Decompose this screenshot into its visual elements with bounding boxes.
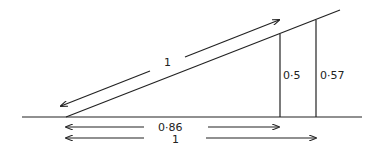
- short-vertical-label: 0·5: [283, 69, 301, 82]
- base-long-label: 1: [172, 133, 179, 146]
- tall-vertical-label: 0·57: [320, 69, 345, 82]
- triangle-diagram: 1 0·5 0·57 0·86 1: [0, 0, 379, 152]
- hypotenuse-line: [66, 10, 340, 117]
- hypotenuse-arrow-left: [61, 71, 150, 106]
- hypotenuse-arrow-right: [185, 20, 279, 57]
- hypotenuse-label: 1: [164, 56, 171, 69]
